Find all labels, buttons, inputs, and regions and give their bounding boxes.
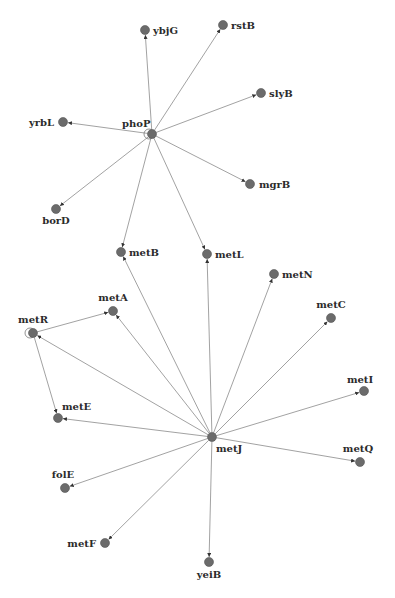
edge-metJ-metF	[109, 440, 209, 539]
node-circle[interactable]	[29, 329, 38, 338]
edge-metJ-folE	[70, 438, 208, 486]
edge-phoP-rstB	[154, 29, 220, 130]
edge-metJ-yeiB	[209, 441, 212, 557]
node-label: phoP	[122, 118, 151, 129]
node-circle[interactable]	[356, 458, 365, 467]
node-circle[interactable]	[246, 180, 255, 189]
node-metL[interactable]: metL	[203, 249, 244, 260]
edge-metJ-metR	[37, 336, 208, 435]
edge-phoP-metL	[154, 138, 205, 249]
node-label: mgrB	[259, 179, 290, 190]
edge-metJ-metA	[116, 315, 209, 434]
node-label: metR	[18, 314, 49, 325]
node-label: slyB	[269, 88, 293, 99]
node-label: metJ	[216, 443, 243, 454]
node-label: metE	[62, 401, 92, 412]
node-label: rstB	[231, 20, 255, 31]
node-metB[interactable]: metB	[117, 247, 160, 258]
node-yeiB[interactable]: yeiB	[196, 558, 221, 581]
edge-metJ-metC	[215, 322, 327, 434]
node-metQ[interactable]: metQ	[343, 443, 374, 467]
node-metA[interactable]: metA	[98, 292, 128, 316]
nodes-layer: phoPybjGrstBslyByrbLmgrBborDmetBmetLmetN…	[18, 20, 373, 580]
node-circle[interactable]	[270, 270, 279, 279]
node-circle[interactable]	[203, 250, 212, 259]
node-label: yrbL	[28, 117, 54, 128]
node-circle[interactable]	[141, 26, 150, 35]
edge-metJ-metI	[216, 392, 359, 435]
edge-metJ-metB	[123, 256, 210, 432]
node-label: metB	[129, 247, 159, 258]
node-yrbL[interactable]: yrbL	[28, 117, 68, 128]
node-circle[interactable]	[59, 118, 68, 127]
node-label: ybjG	[152, 25, 178, 36]
node-circle[interactable]	[101, 539, 110, 548]
node-label: metI	[347, 374, 374, 385]
edge-phoP-slyB	[156, 95, 256, 133]
node-mgrB[interactable]: mgrB	[246, 179, 291, 190]
edge-metJ-metL	[207, 259, 212, 433]
node-circle[interactable]	[148, 130, 157, 139]
node-label: metL	[215, 249, 244, 260]
node-metE[interactable]: metE	[54, 401, 92, 423]
node-circle[interactable]	[257, 89, 266, 98]
node-label: metC	[316, 299, 346, 310]
node-circle[interactable]	[205, 558, 214, 567]
node-metC[interactable]: metC	[316, 299, 346, 323]
node-label: metQ	[343, 443, 374, 454]
node-borD[interactable]: borD	[42, 205, 70, 227]
node-circle[interactable]	[117, 248, 126, 257]
node-metN[interactable]: metN	[270, 269, 313, 280]
node-label: metF	[67, 538, 96, 549]
node-circle[interactable]	[219, 21, 228, 30]
edge-phoP-metB	[122, 138, 151, 247]
node-ybjG[interactable]: ybjG	[141, 25, 178, 36]
node-circle[interactable]	[360, 387, 369, 396]
node-label: yeiB	[196, 569, 221, 580]
edge-phoP-ybjG	[145, 35, 151, 130]
node-metJ[interactable]: metJ	[208, 433, 243, 455]
edge-phoP-mgrB	[156, 136, 246, 182]
node-slyB[interactable]: slyB	[257, 88, 293, 99]
node-metI[interactable]: metI	[347, 374, 374, 396]
edge-metJ-metN	[214, 279, 273, 433]
edge-phoP-borD	[60, 137, 149, 206]
network-diagram: phoPybjGrstBslyByrbLmgrBborDmetBmetLmetN…	[0, 0, 395, 598]
node-folE[interactable]: folE	[52, 469, 75, 493]
node-label: metN	[282, 269, 313, 280]
node-circle[interactable]	[61, 484, 70, 493]
node-circle[interactable]	[327, 314, 336, 323]
node-metR[interactable]: metR	[18, 314, 49, 338]
edge-metJ-metE	[63, 419, 208, 437]
node-label: folE	[52, 469, 75, 480]
node-label: borD	[42, 215, 70, 226]
edge-metR-metE	[34, 337, 56, 413]
node-circle[interactable]	[109, 307, 118, 316]
edge-metR-metA	[37, 312, 108, 331]
node-circle[interactable]	[52, 205, 61, 214]
node-circle[interactable]	[208, 433, 217, 442]
node-rstB[interactable]: rstB	[219, 20, 255, 31]
node-circle[interactable]	[54, 414, 63, 423]
node-metF[interactable]: metF	[67, 538, 109, 549]
node-label: metA	[98, 292, 128, 303]
edges-layer	[34, 29, 359, 557]
